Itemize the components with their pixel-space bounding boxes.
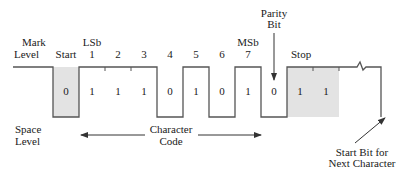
space-level-label-2: Level: [15, 135, 40, 147]
mark-level-label-2: Level: [14, 48, 39, 60]
svg-text:4: 4: [167, 48, 173, 60]
svg-text:0: 0: [219, 85, 225, 97]
svg-text:6: 6: [219, 48, 225, 60]
start-label: Start: [56, 48, 77, 60]
parity-label-2: Bit: [267, 18, 280, 30]
svg-text:1: 1: [297, 85, 303, 97]
character-code-label-2: Code: [159, 135, 182, 147]
svg-text:1: 1: [89, 85, 95, 97]
svg-text:1: 1: [193, 85, 199, 97]
svg-text:0: 0: [63, 85, 69, 97]
stop-label: Stop: [291, 48, 312, 60]
svg-text:0: 0: [271, 85, 277, 97]
stop-bits-shade: [287, 67, 339, 117]
svg-text:1: 1: [245, 85, 251, 97]
svg-text:0: 0: [167, 85, 173, 97]
next-start-arrow: [355, 118, 385, 143]
next-start-label-2: Next Character: [329, 157, 396, 169]
character-code-label: Character: [150, 123, 193, 135]
svg-text:1: 1: [141, 85, 147, 97]
bit-positions: 1 2 3 4 5 6 7: [89, 48, 251, 60]
svg-text:2: 2: [115, 48, 121, 60]
serial-frame-diagram: Mark Level Start LSb MSb Parity Bit Stop…: [0, 0, 402, 169]
svg-text:1: 1: [89, 48, 95, 60]
svg-text:1: 1: [323, 85, 329, 97]
svg-text:7: 7: [245, 48, 251, 60]
space-level-label: Space: [15, 123, 41, 135]
msb-label: MSb: [237, 36, 259, 48]
svg-text:3: 3: [141, 48, 147, 60]
svg-text:1: 1: [115, 85, 121, 97]
mark-level-label: Mark: [22, 36, 46, 48]
lsb-label: LSb: [83, 36, 102, 48]
svg-text:5: 5: [193, 48, 199, 60]
